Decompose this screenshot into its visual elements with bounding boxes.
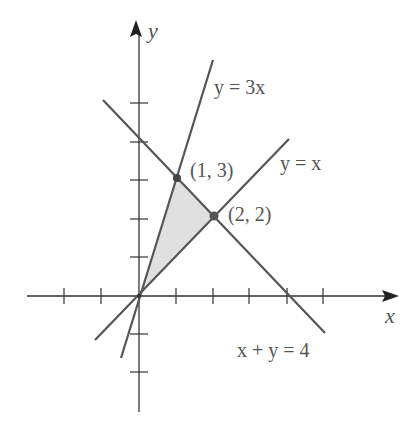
shaded-region <box>139 178 214 296</box>
label-point-2-2: (2, 2) <box>228 203 271 226</box>
label-x-plus-y-equals-4: x + y = 4 <box>237 339 310 362</box>
coordinate-plane: x y y = 3x y = x x + y = 4 (1, 3) (2, 2) <box>0 0 410 422</box>
point-2-2 <box>210 212 219 221</box>
y-axis-label: y <box>146 18 158 43</box>
origin-point <box>137 294 141 298</box>
x-axis-label: x <box>384 303 395 328</box>
point-1-3 <box>173 174 181 182</box>
label-point-1-3: (1, 3) <box>190 159 233 182</box>
label-y-equals-x: y = x <box>280 152 321 175</box>
y-axis-arrow-icon <box>130 20 142 37</box>
label-y-equals-3x: y = 3x <box>214 76 265 99</box>
